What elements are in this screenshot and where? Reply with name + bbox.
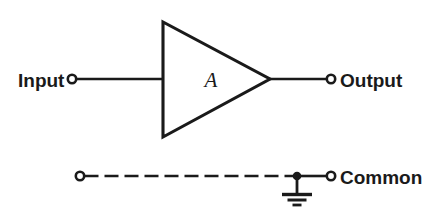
common-label: Common <box>340 167 422 188</box>
ground-symbol <box>282 176 312 205</box>
common-left-terminal-circle[interactable] <box>76 172 84 180</box>
input-label: Input <box>18 70 65 91</box>
input-terminal-circle[interactable] <box>68 75 76 83</box>
output-terminal-circle[interactable] <box>327 75 335 83</box>
output-label: Output <box>340 70 403 91</box>
amplifier-schematic: Input A Output Common <box>0 0 433 212</box>
amplifier-gain-label: A <box>203 68 218 92</box>
common-right-terminal-circle[interactable] <box>327 172 335 180</box>
circuit-diagram-canvas: Input A Output Common <box>0 0 433 212</box>
